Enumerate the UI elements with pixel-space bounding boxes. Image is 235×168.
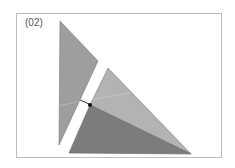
connector-arrow xyxy=(80,100,89,104)
pivot-point xyxy=(88,103,92,107)
diagram-canvas xyxy=(0,0,235,168)
